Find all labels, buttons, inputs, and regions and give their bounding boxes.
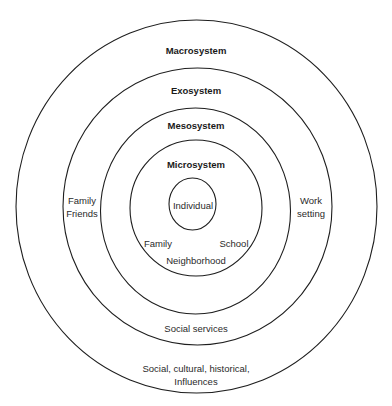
micro-school-label: School	[219, 238, 248, 249]
ecological-systems-diagram: Macrosystem Exosystem Mesosystem Microsy…	[0, 0, 392, 406]
macrosystem-label: Macrosystem	[166, 45, 227, 56]
micro-family-label: Family	[144, 238, 172, 249]
diagram-svg: Macrosystem Exosystem Mesosystem Microsy…	[0, 0, 392, 406]
microsystem-label: Microsystem	[167, 159, 225, 170]
exo-left-friends-label: Friends	[66, 208, 98, 219]
mesosystem-label: Mesosystem	[167, 120, 224, 131]
exo-right-work-label: Work	[300, 195, 322, 206]
exo-right-setting-label: setting	[297, 208, 325, 219]
micro-neighborhood-label: Neighborhood	[166, 255, 226, 266]
macro-influences-line1: Social, cultural, historical,	[142, 363, 249, 374]
exo-left-family-label: Family	[68, 195, 96, 206]
macro-influences-line2: Influences	[174, 376, 218, 387]
individual-label: Individual	[173, 200, 213, 211]
exo-social-services-label: Social services	[164, 323, 228, 334]
exosystem-label: Exosystem	[171, 85, 221, 96]
